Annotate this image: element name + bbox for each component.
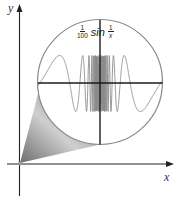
- coefficient-fraction: 1 100: [77, 24, 88, 39]
- y-axis-arrow-icon: [17, 4, 23, 12]
- function-name: sin: [91, 26, 105, 38]
- x-axis-label: x: [164, 170, 169, 185]
- x-axis-arrow-icon: [166, 161, 174, 167]
- argument-numerator: 1: [108, 24, 114, 32]
- coefficient-denominator: 100: [77, 32, 88, 39]
- y-axis-label: y: [8, 1, 13, 16]
- argument-fraction: 1 x: [108, 24, 114, 39]
- formula-label: 1 100 sin 1 x: [77, 24, 114, 39]
- argument-denominator: x: [109, 32, 112, 39]
- coefficient-numerator: 1: [80, 24, 86, 32]
- origin-point: [18, 162, 22, 166]
